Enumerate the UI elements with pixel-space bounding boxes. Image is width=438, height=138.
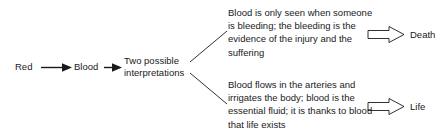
arrow-blood-to-interpretations xyxy=(104,63,122,72)
node-interpretations-line-2: interpretations xyxy=(124,67,194,79)
outcome-label-death: Death xyxy=(410,29,435,41)
outcome-label-life: Life xyxy=(410,101,425,113)
node-red: Red xyxy=(15,61,32,73)
branch-upper-line-4: suffering xyxy=(228,46,372,59)
flow-diagram: Red Blood Two possible interpretations B… xyxy=(0,0,438,138)
branch-lower-description: Blood flows in the arteries and irrigate… xyxy=(228,78,372,131)
diagram-connectors-layer xyxy=(0,0,438,138)
branch-line-upper xyxy=(190,31,227,62)
branch-upper-line-1: Blood is only seen when someone xyxy=(228,6,372,19)
branch-lower-line-2: irrigates the body; blood is the xyxy=(228,91,372,104)
branch-lower-line-4: that life exists xyxy=(228,118,372,131)
branch-upper-line-3: evidence of the injury and the xyxy=(228,32,372,45)
arrow-red-to-blood xyxy=(41,63,72,72)
block-arrow-life-icon xyxy=(368,99,404,115)
branch-lower-line-1: Blood flows in the arteries and xyxy=(228,78,372,91)
branch-lower-line-3: essential fluid; it is thanks to blood xyxy=(228,104,372,117)
node-interpretations-line-1: Two possible xyxy=(124,55,194,67)
node-blood: Blood xyxy=(74,61,98,73)
branch-upper-description: Blood is only seen when someone is bleed… xyxy=(228,6,372,59)
block-arrow-death-icon xyxy=(368,27,404,43)
node-two-possible-interpretations: Two possible interpretations xyxy=(124,55,194,78)
branch-line-lower xyxy=(190,73,227,104)
branch-upper-line-2: is bleeding; the bleeding is the xyxy=(228,19,372,32)
